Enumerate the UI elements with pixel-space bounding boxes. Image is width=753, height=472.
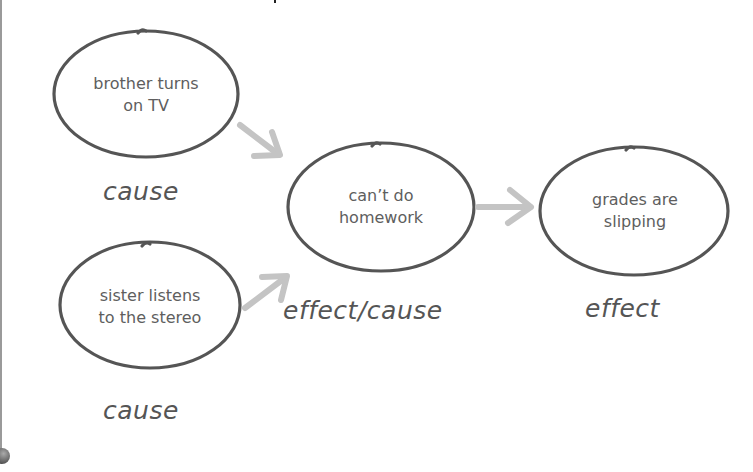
- node-brother: brother turns on TV: [66, 73, 226, 117]
- node-grades: grades are slipping: [555, 189, 715, 233]
- node-brother-line2: on TV: [66, 95, 226, 117]
- arrow-brother-to-homework: [240, 125, 280, 156]
- node-grades-line1: grades are: [555, 189, 715, 211]
- node-homework: can’t do homework: [301, 185, 461, 229]
- label-grades-effect: effect: [585, 294, 660, 323]
- node-sister-line2: to the stereo: [70, 307, 230, 329]
- arrow-homework-to-grades: [478, 190, 531, 223]
- label-homework-effect-cause: effect/cause: [283, 296, 443, 325]
- node-grades-line2: slipping: [555, 211, 715, 233]
- node-homework-line1: can’t do: [301, 185, 461, 207]
- node-sister: sister listens to the stereo: [70, 285, 230, 329]
- node-sister-line1: sister listens: [70, 285, 230, 307]
- arrow-sister-to-homework: [245, 276, 287, 308]
- node-brother-line1: brother turns: [66, 73, 226, 95]
- label-brother-cause: cause: [103, 177, 179, 206]
- label-sister-cause: cause: [103, 396, 179, 425]
- node-homework-line2: homework: [301, 207, 461, 229]
